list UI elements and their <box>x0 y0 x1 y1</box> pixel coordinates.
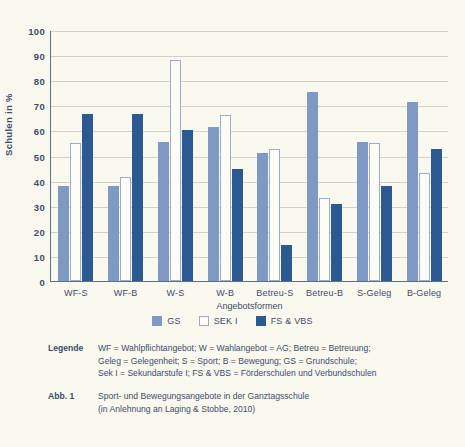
bar-group <box>300 31 350 281</box>
y-axis-tick-label: 10 <box>34 251 45 262</box>
y-axis-tick-label: 30 <box>34 201 45 212</box>
bar <box>220 115 231 281</box>
bar <box>132 114 143 281</box>
bar <box>357 142 368 281</box>
legend-swatch-icon <box>256 316 266 326</box>
x-axis-tick-label: Betreu-B <box>306 288 343 298</box>
bar <box>307 92 318 282</box>
bar <box>431 149 442 281</box>
y-axis-tick-label: 20 <box>34 226 45 237</box>
bar <box>281 245 292 281</box>
figure-caption-text: Sport- und Bewegungsangebote in der Ganz… <box>98 390 309 415</box>
bar-group <box>200 31 250 281</box>
bar <box>319 198 330 281</box>
y-axis-tick-label: 100 <box>28 26 45 37</box>
x-axis-label: Angebotsformen <box>216 301 282 311</box>
bar <box>108 186 119 281</box>
legend-label: GS <box>167 316 180 326</box>
legend-item: FS & VBS <box>256 316 313 326</box>
figure-caption: Abb. 1 Sport- und Bewegungsangebote in d… <box>48 390 309 415</box>
bar <box>269 149 280 281</box>
y-axis-tick-label: 0 <box>39 277 45 288</box>
x-axis-tick-label: Betreu-S <box>256 288 293 298</box>
plot-area: 1009080706050403020100 WF-SWF-BW-SW-BBet… <box>50 31 448 282</box>
bar <box>120 177 131 281</box>
legend-swatch-icon <box>199 316 209 326</box>
bar <box>70 143 81 281</box>
legend-footnote-text: WF = Wahlpflichtangebot; W = Wahlangebot… <box>98 342 377 380</box>
bar <box>381 186 392 281</box>
y-axis-tick-label: 60 <box>34 126 45 137</box>
bar <box>419 173 430 281</box>
bar <box>182 130 193 281</box>
y-axis-tick-label: 50 <box>34 151 45 162</box>
legend-item: SEK I <box>199 316 238 326</box>
x-axis-tick-label: W-B <box>216 288 234 298</box>
bar-group <box>51 31 101 281</box>
figure-caption-key: Abb. 1 <box>48 390 98 415</box>
bar-group <box>151 31 201 281</box>
legend-footnote-key: Legende <box>48 342 98 380</box>
legend-label: SEK I <box>214 316 238 326</box>
legend-item: GS <box>152 316 180 326</box>
figure-panel: Schulen in % 1009080706050403020100 WF-S… <box>0 0 465 447</box>
y-axis-tick-label: 80 <box>34 76 45 87</box>
legend-swatch-icon <box>152 316 162 326</box>
y-axis-label: Schulen in % <box>3 93 14 156</box>
bar <box>331 204 342 281</box>
bar-group <box>350 31 400 281</box>
legend-label: FS & VBS <box>271 316 313 326</box>
x-axis-tick-label: W-S <box>166 288 184 298</box>
bar <box>407 102 418 281</box>
bar <box>170 60 181 281</box>
bar <box>58 186 69 281</box>
bar-group <box>399 31 449 281</box>
x-axis-tick-label: B-Geleg <box>407 288 441 298</box>
x-axis-tick-label: S-Geleg <box>357 288 391 298</box>
bar <box>232 169 243 281</box>
bar <box>257 153 268 281</box>
bar-group <box>250 31 300 281</box>
y-axis-tick-label: 40 <box>34 176 45 187</box>
bar <box>369 143 380 281</box>
bar <box>82 114 93 281</box>
x-axis-tick-label: WF-B <box>114 288 138 298</box>
bar <box>208 127 219 281</box>
chart-legend: GSSEK IFS & VBS <box>0 316 465 326</box>
bar-group <box>101 31 151 281</box>
bar <box>158 142 169 281</box>
y-axis-tick-label: 70 <box>34 101 45 112</box>
y-axis-tick-label: 90 <box>34 51 45 62</box>
legend-footnote: Legende WF = Wahlpflichtangebot; W = Wah… <box>48 342 377 380</box>
x-axis-tick-label: WF-S <box>64 288 88 298</box>
